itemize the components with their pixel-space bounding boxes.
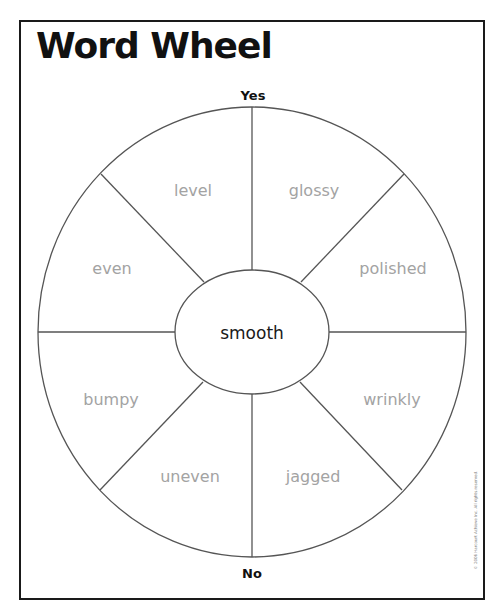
word-uneven: uneven: [160, 467, 220, 486]
copyright-notice: © 2006 Harcourt Achieve Inc. All rights …: [473, 471, 478, 570]
word-level: level: [174, 181, 212, 200]
word-jagged: jagged: [286, 467, 341, 486]
center-word: smooth: [220, 323, 284, 343]
word-polished: polished: [359, 259, 426, 278]
word-bumpy: bumpy: [83, 390, 139, 409]
word-wrinkly: wrinkly: [363, 390, 420, 409]
pole-yes-label: Yes: [241, 88, 266, 103]
pole-no-label: No: [242, 566, 262, 581]
word-even: even: [92, 259, 131, 278]
word-glossy: glossy: [289, 181, 340, 200]
